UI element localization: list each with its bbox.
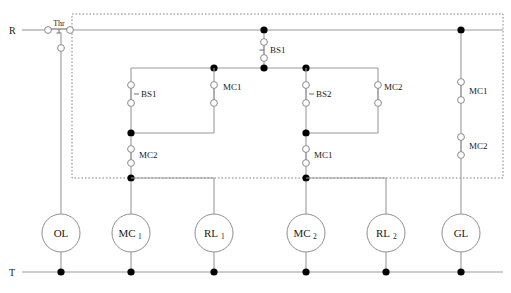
coil-mc2-label: MC <box>293 227 310 239</box>
coil-mc2-subscript: 2 <box>313 232 317 241</box>
circuit-diagram-canvas: BS1 BS1 MC1 <box>0 0 511 293</box>
output-node-right <box>302 174 386 214</box>
coil-ol-label: OL <box>54 227 69 239</box>
contact-stop-bs1[interactable] <box>260 26 268 68</box>
label-stop-bs1: BS1 <box>270 45 286 55</box>
middle-bus <box>131 64 378 71</box>
branch-ol <box>58 33 65 214</box>
coil-gl[interactable]: GL <box>442 214 480 272</box>
contact-interlock-mc1[interactable] <box>303 137 310 178</box>
label-seal-mc2: MC2 <box>384 82 403 92</box>
label-gl-mc2: MC2 <box>469 141 488 151</box>
coil-mc2[interactable]: MC 2 <box>287 214 325 272</box>
contact-interlock-mc2[interactable] <box>128 137 135 178</box>
label-start-bs1: BS1 <box>141 89 157 99</box>
bottom-rail-T <box>22 268 503 275</box>
coil-rl1-subscript: 1 <box>221 232 225 241</box>
coil-gl-label: GL <box>454 227 469 239</box>
branch-gl <box>457 26 464 214</box>
output-node-left <box>127 174 214 214</box>
rung-left-start <box>127 68 217 137</box>
label-interlock-mc2: MC2 <box>139 150 158 160</box>
ladder-diagram-svg: BS1 BS1 MC1 <box>0 0 511 293</box>
coil-rl2[interactable]: RL 2 <box>367 214 405 272</box>
coil-mc1[interactable]: MC 1 <box>112 214 150 272</box>
coil-ol[interactable]: OL <box>42 214 80 272</box>
rung-right-start <box>302 68 381 137</box>
contact-gl-mc1[interactable] <box>458 79 465 104</box>
coil-rl1[interactable]: RL 1 <box>195 214 233 272</box>
coil-row: OL MC 1 RL 1 MC 2 <box>42 214 480 272</box>
label-seal-mc1: MC1 <box>223 82 242 92</box>
contact-gl-mc2[interactable] <box>458 134 465 159</box>
label-gl-mc1: MC1 <box>469 86 488 96</box>
coil-rl1-label: RL <box>204 227 218 239</box>
rail-label-R: R <box>9 25 16 36</box>
control-panel-enclosure <box>72 14 503 178</box>
coil-mc1-subscript: 1 <box>138 232 142 241</box>
label-start-bs2: BS2 <box>316 89 332 99</box>
coil-rl2-label: RL <box>376 227 390 239</box>
rail-label-T: T <box>9 267 15 278</box>
coil-rl2-subscript: 2 <box>393 232 397 241</box>
label-interlock-mc1: MC1 <box>314 150 333 160</box>
coil-mc1-label: MC <box>118 227 135 239</box>
thr-label: Thr <box>53 19 65 28</box>
